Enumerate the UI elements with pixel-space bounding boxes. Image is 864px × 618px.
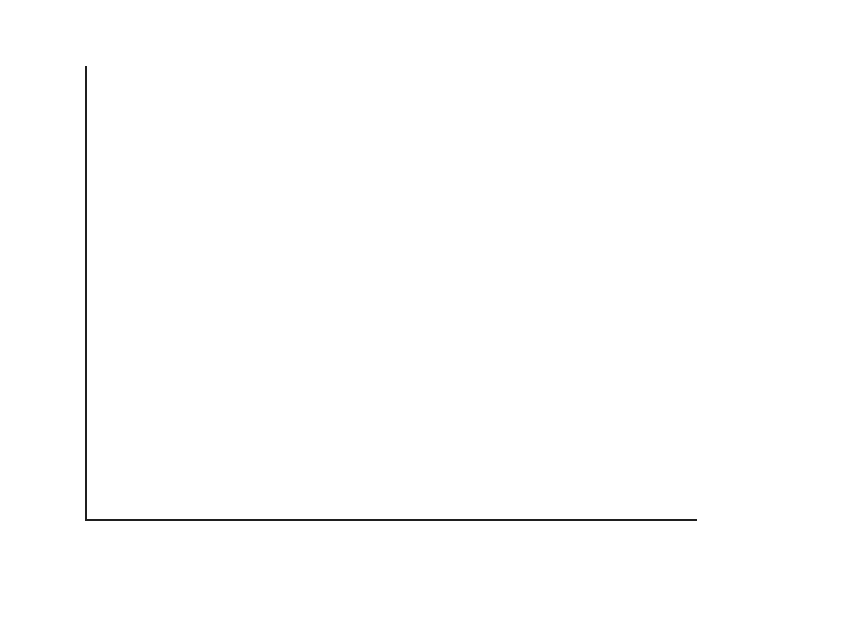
- x-axis-line: [85, 519, 697, 521]
- plot-area: [87, 68, 695, 519]
- gdp-share-stacked-bar-chart: [0, 0, 864, 618]
